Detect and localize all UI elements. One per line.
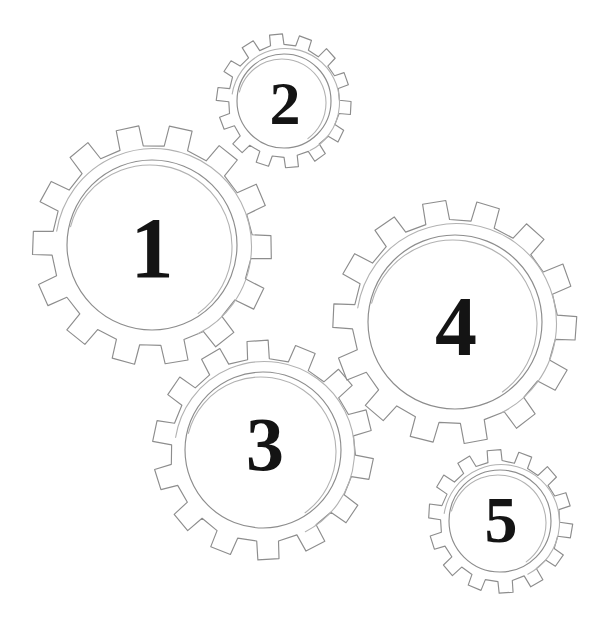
gear-number-label-4: 4 (435, 280, 477, 373)
gear-number-label-2: 2 (270, 69, 301, 137)
gear-number-label-3: 3 (246, 402, 284, 486)
gear-illustration: 12345 (0, 0, 607, 622)
gear-number-label-1: 1 (131, 200, 174, 296)
illustration-canvas: 12345 (0, 0, 607, 622)
gear-number-label-5: 5 (485, 483, 518, 556)
